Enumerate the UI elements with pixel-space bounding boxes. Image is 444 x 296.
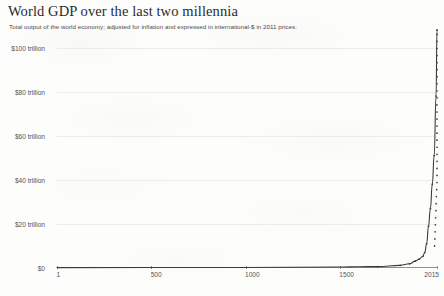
data-point-marker [436, 132, 438, 134]
data-point-1900 [414, 260, 416, 262]
x-tick-label-2015: 2015 [424, 271, 439, 278]
data-point-marker [436, 125, 438, 127]
data-point-2010 [435, 95, 437, 97]
data-point-marker [436, 69, 438, 71]
data-point-marker [435, 224, 437, 226]
data-point-1970 [428, 225, 430, 227]
data-point-marker [436, 41, 438, 43]
data-point-marker [436, 62, 438, 64]
chart-subtitle: Total output of the world economy; adjus… [9, 23, 297, 30]
data-point-marker [436, 175, 438, 177]
chart-title: World GDP over the last two millennia [8, 3, 238, 20]
chart-figure: World GDP over the last two millennia To… [0, 0, 444, 296]
x-tick-mark-2015 [437, 266, 438, 269]
data-point-marker [436, 189, 438, 191]
data-point-marker [436, 139, 438, 141]
y-tick-label-100: $100 trillion [11, 44, 45, 51]
data-point-marker [434, 231, 436, 233]
data-point-marker [436, 111, 438, 113]
data-point-marker [436, 97, 438, 99]
data-point-1950 [424, 252, 426, 254]
data-point-1700 [377, 266, 379, 268]
data-point-marker [436, 118, 438, 120]
data-point-marker [434, 238, 436, 240]
data-point-marker [436, 83, 438, 85]
y-tick-label-0: $0 [38, 265, 45, 272]
data-point-2015 [436, 29, 438, 31]
data-point-1960 [426, 243, 428, 245]
y-tick-label-60: $60 trillion [15, 132, 45, 139]
data-point-marker [436, 76, 438, 78]
data-point-marker [436, 34, 438, 36]
y-tick-label-80: $80 trillion [15, 88, 45, 95]
data-point-1920 [418, 258, 420, 260]
data-point-1870 [409, 263, 411, 265]
data-point-marker [434, 245, 436, 247]
world-gdp-markers [377, 29, 438, 267]
data-point-marker [436, 48, 438, 50]
y-tick-label-40: $40 trillion [15, 176, 45, 183]
x-tick-label-1: 1 [57, 271, 61, 278]
data-point-marker [436, 182, 438, 184]
data-point-marker [436, 196, 438, 198]
data-point-1990 [431, 183, 433, 185]
world-gdp-line [57, 30, 437, 268]
x-tick-label-500: 500 [151, 271, 162, 278]
y-tick-label-20: $20 trillion [15, 220, 45, 227]
data-point-1940 [422, 255, 424, 257]
data-point-marker [436, 153, 438, 155]
x-tick-label-1500: 1500 [339, 271, 354, 278]
data-series-layer [57, 30, 437, 268]
data-point-marker [436, 160, 438, 162]
plot-area: $100 trillion$80 trillion$60 trillion$40… [57, 30, 437, 268]
data-point-2000 [433, 155, 435, 157]
data-point-marker [435, 210, 437, 212]
data-point-marker [435, 203, 437, 205]
data-point-marker [436, 104, 438, 106]
data-point-marker [436, 90, 438, 92]
data-point-marker [436, 168, 438, 170]
x-tick-label-1000: 1000 [245, 271, 260, 278]
data-point-1820 [399, 264, 401, 266]
data-point-1980 [430, 208, 432, 210]
data-point-marker [436, 55, 438, 57]
data-point-marker [435, 217, 437, 219]
data-point-marker [436, 146, 438, 148]
